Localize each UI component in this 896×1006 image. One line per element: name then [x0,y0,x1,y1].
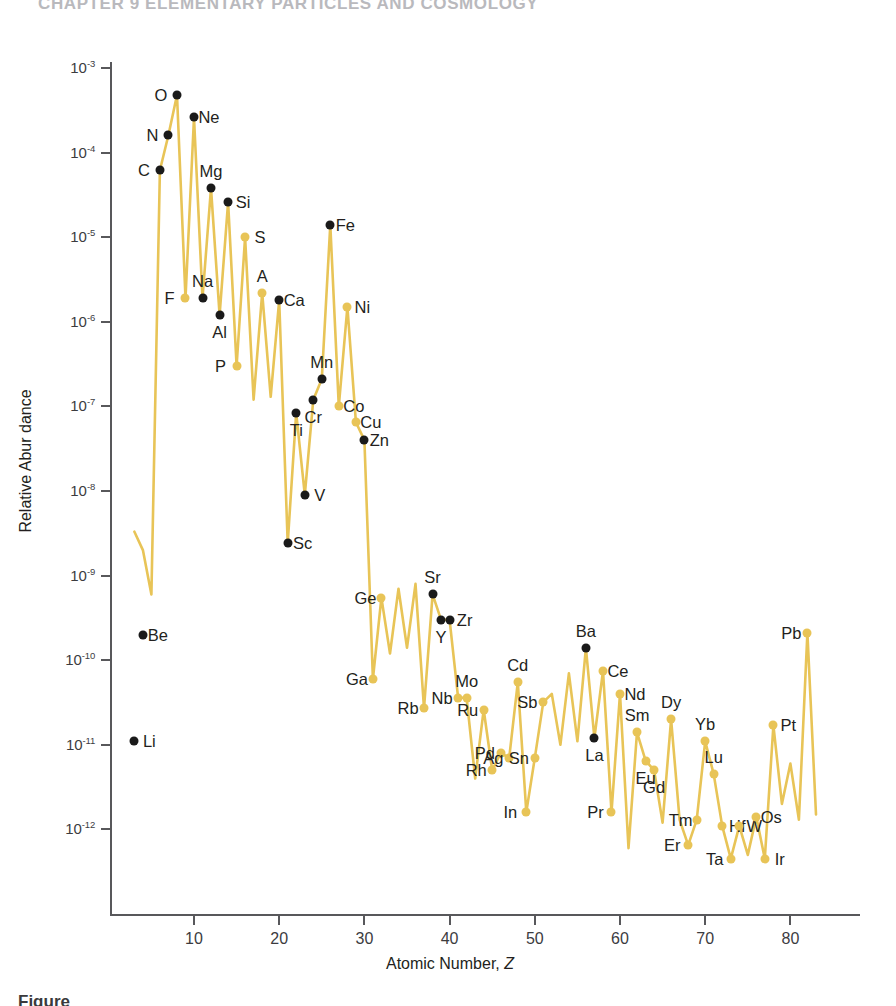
data-point-v [300,490,309,499]
element-label-na: Na [192,273,213,290]
element-label-si: Si [236,194,251,211]
data-point-ga [368,674,377,683]
element-label-sm: Sm [625,707,650,724]
y-axis-tick-label: 10-11 [33,735,95,753]
y-axis-tick-label: 10-10 [33,650,95,668]
element-label-fe: Fe [336,217,355,234]
element-label-ga: Ga [346,671,368,688]
element-label-zr: Zr [457,612,473,629]
data-point-ni [343,302,352,311]
data-point-cu [351,418,360,427]
data-point-n [164,131,173,140]
element-label-c: C [138,162,150,179]
data-point-pt [769,721,778,730]
data-point-sr [428,590,437,599]
data-point-hf [718,821,727,830]
x-axis-tick [789,914,791,925]
element-label-ne: Ne [198,109,219,126]
data-point-os [752,813,761,822]
element-label-ir: Ir [775,850,785,867]
data-point-ce [598,666,607,675]
element-label-s: S [255,229,266,246]
figure-caption: Figure [18,992,478,1006]
y-axis-tick [101,152,112,154]
x-axis-tick [619,914,621,925]
element-label-o: O [155,87,168,104]
element-label-mg: Mg [200,163,223,180]
data-point-mg [207,184,216,193]
data-point-cr [309,395,318,404]
element-label-y: Y [436,629,447,646]
x-axis-tick-label: 80 [770,930,810,948]
data-point-al [215,311,224,320]
element-label-rb: Rb [397,700,418,717]
element-label-ca: Ca [284,292,305,309]
element-label-ce: Ce [607,663,628,680]
y-axis-tick-label: 10-7 [33,396,95,414]
x-axis-label-symbol: Z [504,955,514,972]
element-label-gd: Gd [643,779,665,796]
data-point-ca [275,296,284,305]
y-axis-tick [101,744,112,746]
data-point-zn [360,436,369,445]
y-axis-tick-label: 10-12 [33,819,95,837]
data-point-ru [479,705,488,714]
element-label-be: Be [148,626,168,643]
data-point-p [232,362,241,371]
y-axis-tick-label: 10-9 [33,566,95,584]
element-label-ag: Ag [483,750,503,767]
element-label-cd: Cd [507,657,528,674]
data-point-sm [633,728,642,737]
data-point-co [334,402,343,411]
data-point-s [241,233,250,242]
element-label-ru: Ru [457,701,478,718]
x-axis-label-text: Atomic Number, [386,955,504,972]
data-point-zr [445,615,454,624]
data-point-ba [581,643,590,652]
data-point-nd [616,689,625,698]
data-point-li [130,737,139,746]
x-axis-label: Atomic Number, Z [290,955,610,973]
y-axis-tick [101,659,112,661]
data-point-dy [667,715,676,724]
data-point-gd [650,766,659,775]
data-point-ge [377,593,386,602]
data-point-cd [513,678,522,687]
element-label-a: A [257,268,268,285]
data-point-a [258,288,267,297]
element-label-ge: Ge [354,589,376,606]
element-label-v: V [314,487,325,504]
element-label-er: Er [664,837,681,854]
x-axis-tick [449,914,451,925]
element-label-pt: Pt [781,717,797,734]
element-label-nb: Nb [432,689,453,706]
y-axis-tick [101,405,112,407]
y-axis-tick [101,236,112,238]
element-label-ni: Ni [355,299,371,316]
x-axis-tick [704,914,706,925]
element-label-ta: Ta [706,850,723,867]
data-point-w [735,821,744,830]
y-axis-tick [101,575,112,577]
element-label-sb: Sb [517,694,537,711]
element-label-mn: Mn [310,354,333,371]
element-label-f: F [164,290,174,307]
data-point-ta [726,854,735,863]
y-axis-tick-label: 10-3 [33,58,95,76]
data-point-sb [539,698,548,707]
element-label-mo: Mo [455,672,478,689]
data-point-f [181,294,190,303]
abundance-chart: LiBeCNOFNeNaMgAlSiPSACaScTiVCrMnFeCoNiCu… [0,0,896,1006]
element-label-zn: Zn [370,432,389,449]
element-label-la: La [585,747,603,764]
x-axis-tick-label: 60 [600,930,640,948]
data-point-si [224,198,233,207]
element-label-pb: Pb [781,625,801,642]
data-point-ir [760,854,769,863]
element-label-pr: Pr [587,804,604,821]
x-axis-tick-label: 10 [174,930,214,948]
data-point-yb [701,737,710,746]
element-label-yb: Yb [695,716,715,733]
y-axis-tick [101,321,112,323]
data-point-pr [607,808,616,817]
